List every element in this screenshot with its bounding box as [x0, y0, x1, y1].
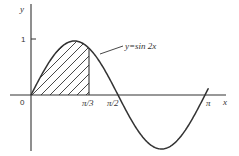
annotation-arrow	[100, 46, 123, 54]
y-tick-label-1: 1	[21, 35, 26, 44]
x-tick-label-pi-3: π/3	[82, 98, 94, 108]
origin-label: 0	[20, 98, 25, 107]
y-axis-label: y	[19, 4, 24, 14]
curve-label: y=sin 2x	[124, 41, 156, 51]
sine-chart: y x 0 1 π/3 π/2 π y=sin 2x	[0, 0, 239, 156]
x-axis-label: x	[222, 97, 227, 107]
x-tick-label-pi-2: π/2	[107, 98, 119, 108]
x-tick-label-pi: π	[206, 98, 211, 108]
hatched-region	[0, 25, 237, 95]
